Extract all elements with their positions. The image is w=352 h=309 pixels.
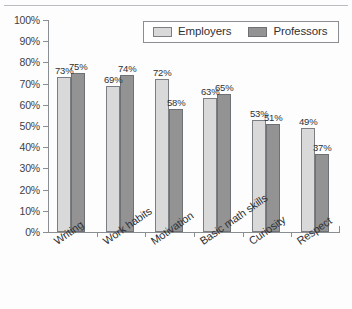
y-axis-tick-label: 0% xyxy=(0,227,40,238)
legend-label-professors: Professors xyxy=(273,26,327,38)
y-axis-tick-label: 50% xyxy=(0,121,40,132)
y-axis-tick-label: 90% xyxy=(0,36,40,47)
y-axis-tick xyxy=(43,20,48,21)
y-axis-tick-label: 70% xyxy=(0,79,40,90)
bar-value-label: 75% xyxy=(69,62,87,72)
y-axis-tick xyxy=(43,168,48,169)
bar-employers-4 xyxy=(252,120,266,232)
y-axis-tick xyxy=(43,105,48,106)
legend-swatch-employers-icon xyxy=(153,27,172,37)
y-axis-tick-label: 40% xyxy=(0,142,40,153)
bar-value-label: 49% xyxy=(299,117,317,127)
bar-professors-0 xyxy=(71,73,85,232)
x-axis-tick xyxy=(243,232,244,237)
bar-professors-3 xyxy=(217,94,231,232)
y-axis-tick-label: 100% xyxy=(0,15,40,26)
bar-value-label: 37% xyxy=(313,143,331,153)
legend-entry-professors: Professors xyxy=(248,22,327,42)
bar-value-label: 65% xyxy=(215,83,233,93)
y-axis-tick-label: 30% xyxy=(0,163,40,174)
y-axis-tick xyxy=(43,190,48,191)
x-axis-right-cap xyxy=(339,226,340,233)
bar-employers-1 xyxy=(106,86,120,232)
y-axis-tick xyxy=(43,147,48,148)
y-axis-tick xyxy=(43,211,48,212)
y-axis-tick xyxy=(43,41,48,42)
x-axis-tick xyxy=(194,232,195,237)
bar-value-label: 58% xyxy=(167,98,185,108)
bar-value-label: 72% xyxy=(153,68,171,78)
x-axis-tick xyxy=(145,232,146,237)
y-axis-line xyxy=(48,20,49,233)
bar-value-label: 74% xyxy=(118,64,136,74)
bar-employers-0 xyxy=(57,77,71,232)
x-axis-tick xyxy=(97,232,98,237)
y-axis-tick-label: 60% xyxy=(0,100,40,111)
y-axis-tick xyxy=(43,84,48,85)
x-axis-tick xyxy=(291,232,292,237)
chart-legend: Employers Professors xyxy=(143,21,339,43)
legend-label-employers: Employers xyxy=(178,26,231,38)
y-axis-tick-label: 80% xyxy=(0,57,40,68)
y-axis-tick xyxy=(43,126,48,127)
bar-value-label: 51% xyxy=(264,113,282,123)
legend-swatch-professors-icon xyxy=(248,27,267,37)
y-axis-tick xyxy=(43,62,48,63)
y-axis-tick-label: 20% xyxy=(0,185,40,196)
bar-professors-1 xyxy=(120,75,134,232)
y-axis-tick-label: 10% xyxy=(0,206,40,217)
bar-employers-3 xyxy=(203,98,217,232)
bar-value-label: 69% xyxy=(104,75,122,85)
top-divider-rule xyxy=(4,5,348,6)
y-axis-tick xyxy=(43,232,48,233)
legend-entry-employers: Employers xyxy=(153,22,231,42)
bar-chart-figure: 100%90%80%70%60%50%40%30%20%10%0% 73%75%… xyxy=(0,0,352,309)
